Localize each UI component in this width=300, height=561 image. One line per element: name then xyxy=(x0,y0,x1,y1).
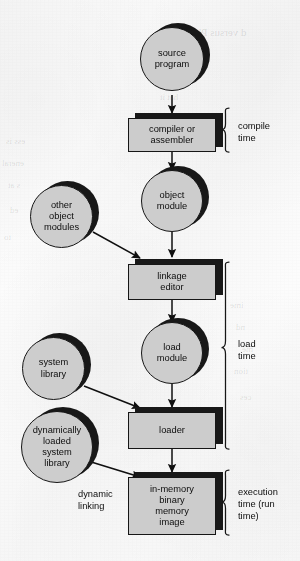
node-dynamically-loaded-system-library[interactable]: dynamically loaded system library xyxy=(21,411,93,483)
node-other-object-modules[interactable]: other object modules xyxy=(30,185,93,248)
phase-label-line: time) xyxy=(238,511,278,523)
node-source-program[interactable]: source program xyxy=(140,27,204,91)
node-label-line: system xyxy=(39,357,68,368)
label-line: linking xyxy=(78,501,113,513)
node-compiler-or-assembler[interactable]: compiler or assembler xyxy=(128,118,216,152)
node-loader[interactable]: loader xyxy=(128,412,216,449)
node-face: object module xyxy=(141,170,203,232)
node-face: compiler or assembler xyxy=(128,118,216,152)
node-label-line: object xyxy=(49,211,74,222)
phase-label-line: execution xyxy=(238,487,278,499)
node-face: linkage editor xyxy=(128,264,216,300)
node-label-line: in-memory xyxy=(150,484,194,495)
node-label-line: assembler xyxy=(151,135,194,146)
label-dynamic-linking: dynamic linking xyxy=(78,489,113,513)
node-face: dynamically loaded system library xyxy=(21,411,93,483)
phase-label-line: load xyxy=(238,339,256,351)
node-label-line: library xyxy=(41,369,66,380)
node-label-line: loader xyxy=(159,425,185,436)
phase-label-compile-time: compile time xyxy=(238,121,270,145)
figure-multistep-processing: d versus Physacesby thehat itess isenera… xyxy=(0,0,300,561)
node-label-line: object xyxy=(160,190,185,201)
node-label-line: source xyxy=(158,48,186,59)
node-label-line: module xyxy=(157,353,188,364)
node-linkage-editor[interactable]: linkage editor xyxy=(128,264,216,300)
node-face: other object modules xyxy=(30,185,93,248)
node-label-line: loaded xyxy=(43,436,71,447)
phase-label-line: time (run xyxy=(238,499,278,511)
node-label-line: compiler or xyxy=(149,124,195,135)
node-label-line: other xyxy=(51,200,72,211)
node-label-line: editor xyxy=(160,282,183,293)
node-label-line: program xyxy=(155,59,190,70)
node-label-line: load xyxy=(163,342,181,353)
phase-label-line: time xyxy=(238,351,256,363)
edge-other-modules-to-linkage-editor xyxy=(93,232,140,258)
node-label-line: library xyxy=(44,458,69,469)
node-in-memory-binary-memory-image[interactable]: in-memory binary memory image xyxy=(128,477,216,535)
node-label-line: memory xyxy=(155,506,189,517)
node-label-line: binary xyxy=(159,495,184,506)
edge-dynamic-library-to-memory-image xyxy=(88,461,140,477)
node-label-line: linkage xyxy=(157,271,186,282)
edge-system-library-to-loader xyxy=(84,386,140,408)
node-face: loader xyxy=(128,412,216,449)
label-line: dynamic xyxy=(78,489,113,501)
node-load-module[interactable]: load module xyxy=(141,322,203,384)
phase-label-line: compile xyxy=(238,121,270,133)
node-label-line: system xyxy=(42,447,71,458)
diagram-canvas: source program compiler or assembler obj… xyxy=(0,0,300,561)
node-label-line: module xyxy=(157,201,188,212)
node-label-line: modules xyxy=(44,222,79,233)
phase-label-load-time: load time xyxy=(238,339,256,363)
node-label-line: image xyxy=(159,517,184,528)
node-face: source program xyxy=(140,27,204,91)
phase-label-line: time xyxy=(238,133,270,145)
node-label-line: dynamically xyxy=(33,425,82,436)
phase-label-execution-time: execution time (run time) xyxy=(238,487,278,523)
node-face: load module xyxy=(141,322,203,384)
node-face: in-memory binary memory image xyxy=(128,477,216,535)
node-object-module[interactable]: object module xyxy=(141,170,203,232)
node-face: system library xyxy=(22,337,85,400)
node-system-library[interactable]: system library xyxy=(22,337,85,400)
